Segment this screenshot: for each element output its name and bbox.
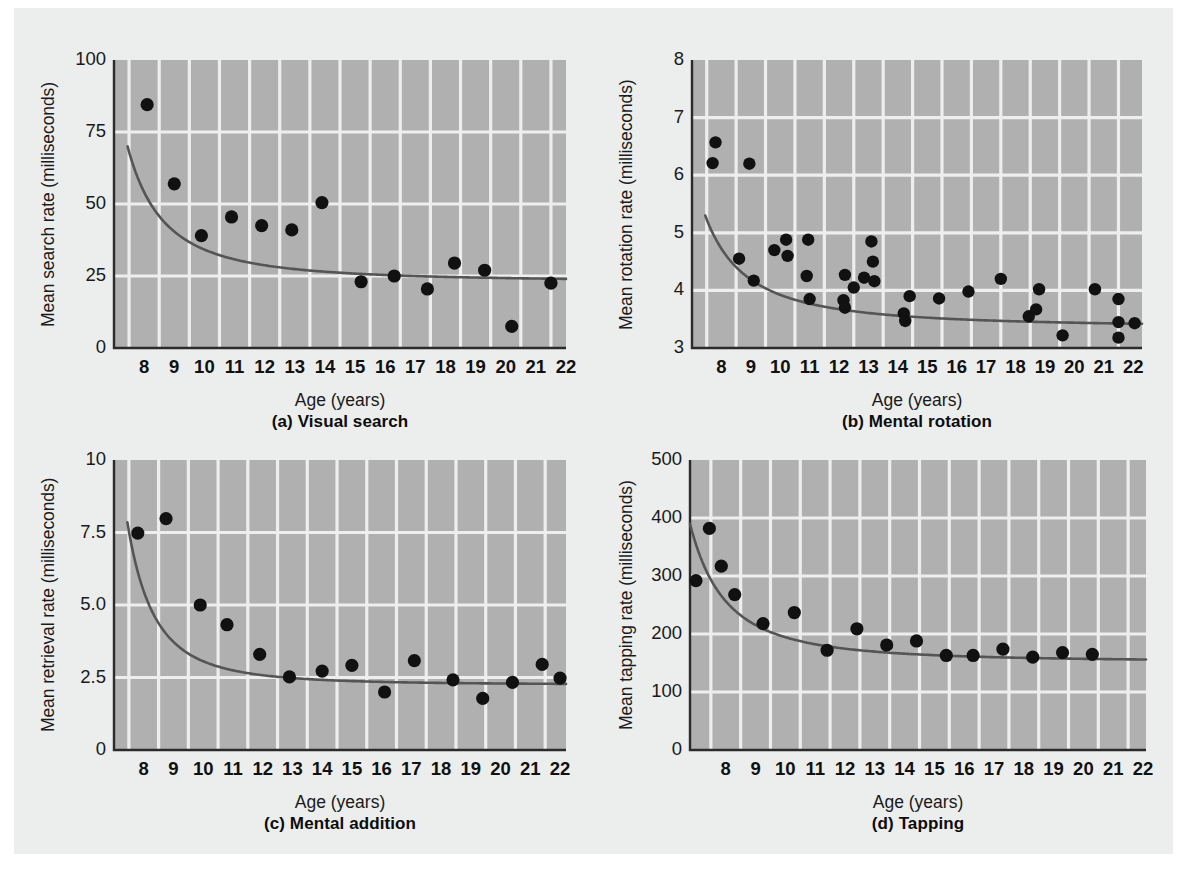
panel-mental-rotation: 3456788910111213141516171819202122Age (y…: [594, 8, 1173, 432]
panel-d-plot-area: 0100200300400500891011121314151617181920…: [594, 432, 1173, 854]
y-tick-label: 8: [594, 48, 684, 70]
panel-caption: (b) Mental rotation: [692, 412, 1142, 432]
data-point: [448, 256, 461, 269]
data-point: [1056, 646, 1069, 659]
y-tick-label: 10: [14, 448, 106, 470]
data-point: [505, 320, 518, 333]
figure-container: 02550751008910111213141516171819202122Ag…: [14, 8, 1173, 854]
data-point: [536, 658, 549, 671]
y-tick-label: 3: [594, 336, 684, 358]
data-point: [194, 598, 207, 611]
data-point: [354, 275, 367, 288]
x-axis-title: Age (years): [114, 390, 566, 411]
data-point: [544, 277, 557, 290]
y-tick-label: 400: [594, 506, 682, 528]
data-point: [1030, 303, 1042, 315]
data-point: [255, 219, 268, 232]
y-axis-title: Mean retrieval rate (milliseconds): [38, 478, 59, 732]
y-tick-label: 500: [594, 448, 682, 470]
data-point: [899, 315, 911, 327]
x-axis-title: Age (years): [690, 792, 1146, 813]
y-tick-label: 300: [594, 564, 682, 586]
data-point: [553, 671, 566, 684]
x-axis-title: Age (years): [692, 390, 1142, 411]
y-tick-label: 5: [594, 221, 684, 243]
y-tick-label: 50: [14, 192, 106, 214]
x-tick-label: 22: [1111, 356, 1155, 378]
data-point: [253, 648, 266, 661]
y-tick-label: 100: [594, 680, 682, 702]
y-tick-label: 0: [14, 336, 106, 358]
data-point: [803, 293, 815, 305]
data-point: [421, 282, 434, 295]
data-point: [743, 157, 755, 169]
data-point: [788, 606, 801, 619]
panel-mental-addition: 02.55.07.5108910111213141516171819202122…: [14, 432, 594, 854]
y-tick-label: 4: [594, 278, 684, 300]
x-tick-label: 22: [1121, 758, 1165, 780]
data-point: [839, 269, 851, 281]
y-tick-label: 100: [14, 48, 106, 70]
panel-caption: (c) Mental addition: [114, 814, 566, 834]
data-point: [388, 269, 401, 282]
data-point: [733, 253, 745, 265]
data-point: [1086, 648, 1099, 661]
data-point: [967, 649, 980, 662]
data-point: [848, 281, 860, 293]
y-tick-label: 0: [594, 738, 682, 760]
data-point: [903, 290, 915, 302]
y-tick-label: 7.5: [14, 521, 106, 543]
data-point: [1112, 316, 1124, 328]
data-point: [850, 622, 863, 635]
y-tick-label: 75: [14, 120, 106, 142]
plot-background: [692, 60, 1142, 348]
data-point: [768, 244, 780, 256]
data-point: [689, 574, 702, 587]
data-point: [1033, 283, 1045, 295]
panel-visual-search: 02550751008910111213141516171819202122Ag…: [14, 8, 594, 432]
data-point: [933, 292, 945, 304]
y-tick-label: 0: [14, 738, 106, 760]
data-point: [865, 235, 877, 247]
x-tick-label: 22: [538, 758, 582, 780]
y-axis-title: Mean search rate (milliseconds): [38, 82, 59, 327]
y-tick-label: 6: [594, 163, 684, 185]
data-point: [141, 98, 154, 111]
data-point: [478, 264, 491, 277]
data-point: [962, 285, 974, 297]
data-point: [880, 638, 893, 651]
data-point: [446, 673, 459, 686]
panel-b-plot-area: 3456788910111213141516171819202122Age (y…: [594, 8, 1173, 432]
data-point: [728, 588, 741, 601]
data-point: [780, 234, 792, 246]
data-point: [378, 685, 391, 698]
panel-tapping: 0100200300400500891011121314151617181920…: [594, 432, 1173, 854]
data-point: [801, 270, 813, 282]
data-point: [756, 617, 769, 630]
x-axis-title: Age (years): [114, 792, 566, 813]
data-point: [283, 670, 296, 683]
data-point: [476, 692, 489, 705]
data-point: [1112, 331, 1124, 343]
data-point: [821, 644, 834, 657]
data-point: [408, 654, 421, 667]
data-point: [285, 223, 298, 236]
data-point: [225, 210, 238, 223]
panel-caption: (a) Visual search: [114, 412, 566, 432]
data-point: [996, 642, 1009, 655]
panel-a-plot-area: 02550751008910111213141516171819202122Ag…: [14, 8, 594, 432]
data-point: [1056, 329, 1068, 341]
data-point: [940, 649, 953, 662]
panel-caption: (d) Tapping: [690, 814, 1146, 834]
data-point: [910, 634, 923, 647]
data-point: [748, 274, 760, 286]
data-point: [781, 250, 793, 262]
data-point: [715, 560, 728, 573]
data-point: [1026, 651, 1039, 664]
data-point: [709, 136, 721, 148]
y-axis-title: Mean tapping rate (milliseconds): [616, 480, 637, 730]
data-point: [858, 272, 870, 284]
data-point: [1089, 283, 1101, 295]
y-tick-label: 2.5: [14, 666, 106, 688]
data-point: [867, 255, 879, 267]
